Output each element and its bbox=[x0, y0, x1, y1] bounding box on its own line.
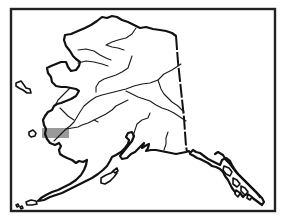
kuskokwim-river bbox=[66, 100, 128, 129]
noatak-river bbox=[106, 28, 136, 50]
kobuk-river bbox=[78, 49, 111, 60]
kuskokwim-branch bbox=[94, 120, 98, 122]
aleutian-island-2 bbox=[16, 204, 19, 207]
nunivak-island bbox=[29, 130, 36, 137]
panhandle-island-3 bbox=[241, 186, 248, 195]
copper-river bbox=[164, 132, 168, 150]
canada-border-line bbox=[176, 36, 187, 152]
panhandle-island-5 bbox=[247, 194, 252, 200]
panhandle-island-4 bbox=[235, 190, 240, 197]
small-island-cook bbox=[113, 168, 118, 173]
western-branch bbox=[60, 108, 74, 120]
alaska-map bbox=[0, 0, 283, 221]
koyukuk-river bbox=[96, 56, 132, 92]
map-svg bbox=[0, 0, 283, 221]
colville-river bbox=[78, 61, 108, 66]
st-lawrence-island bbox=[16, 81, 31, 93]
tanana-river bbox=[126, 91, 186, 121]
susitna-river bbox=[133, 113, 150, 136]
yukon-river bbox=[54, 64, 181, 141]
aleutian-island-1 bbox=[26, 200, 37, 205]
panhandle-island-2 bbox=[233, 178, 240, 187]
aleutian-island-3 bbox=[20, 206, 23, 209]
